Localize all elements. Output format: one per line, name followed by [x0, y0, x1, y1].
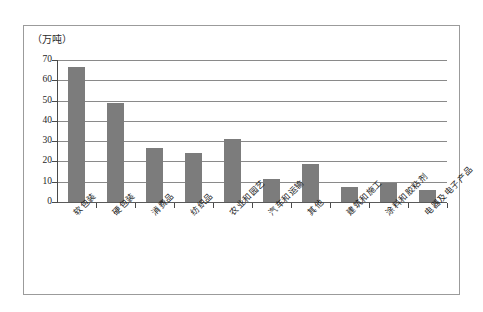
y-axis-label-40: 40: [26, 116, 52, 126]
y-tick-30: [52, 141, 58, 142]
x-tick: [447, 203, 448, 208]
y-axis-label-50: 50: [26, 96, 52, 106]
y-axis-label-0: 0: [26, 197, 52, 207]
x-tick: [369, 203, 370, 208]
y-axis-label-30: 30: [26, 136, 52, 146]
y-axis-label-20: 20: [26, 156, 52, 166]
y-tick-10: [52, 182, 58, 183]
gridline-60: [57, 80, 447, 81]
bar[interactable]: [185, 153, 202, 202]
y-tick-40: [52, 121, 58, 122]
bar[interactable]: [107, 103, 124, 202]
y-axis-label-10: 10: [26, 177, 52, 187]
bar[interactable]: [146, 148, 163, 202]
gridline-50: [57, 101, 447, 102]
y-tick-60: [52, 80, 58, 81]
bar[interactable]: [224, 139, 241, 202]
x-tick: [174, 203, 175, 208]
y-axis-label-70: 70: [26, 55, 52, 65]
y-axis-label-60: 60: [26, 75, 52, 85]
bar[interactable]: [68, 67, 85, 202]
x-tick: [330, 203, 331, 208]
y-tick-0: [52, 202, 58, 203]
plot-area: [57, 60, 447, 202]
x-tick: [291, 203, 292, 208]
x-tick: [213, 203, 214, 208]
x-tick: [408, 203, 409, 208]
y-axis-tick-labels: 706050403020100: [22, 0, 52, 312]
y-tick-50: [52, 101, 58, 102]
x-tick: [96, 203, 97, 208]
y-tick-70: [52, 60, 58, 61]
x-tick: [252, 203, 253, 208]
y-tick-20: [52, 161, 58, 162]
gridline-70: [57, 60, 447, 61]
x-tick: [135, 203, 136, 208]
